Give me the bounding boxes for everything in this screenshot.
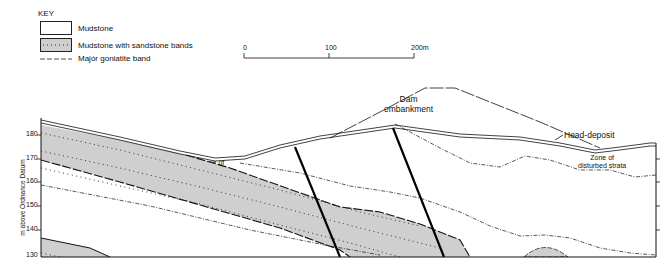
- y-tick-130: 130: [26, 251, 38, 258]
- dam-label: Dam embankment: [384, 94, 433, 114]
- mudstone-swatch: [40, 21, 72, 35]
- key-item-goniatite: Majór goniatite band: [40, 54, 151, 63]
- key-label: Mudstone with sandstone bands: [78, 41, 193, 50]
- y-tick-180: 180: [26, 130, 38, 137]
- key-label: Mudstone: [78, 24, 113, 33]
- goniatite-band-icon: [40, 55, 72, 63]
- scale-tick-200: 200m: [411, 44, 429, 51]
- y-tick-140: 140: [26, 225, 38, 232]
- scale-bar: [244, 53, 414, 58]
- y-tick-150: 150: [26, 201, 38, 208]
- zone-right-label: Zone of disturbed strata: [578, 154, 626, 170]
- key-item-mudstone: Mudstone: [40, 21, 113, 35]
- zone-left-label: Zone of disturbed strata: [198, 159, 227, 183]
- key-title: KEY: [38, 9, 54, 18]
- key-item-mudstone-sandstone: Mudstone with sandstone bands: [40, 38, 193, 52]
- y-axis-label: m above Ordnance Datum: [19, 143, 26, 253]
- sandstone-swatch: [40, 38, 72, 52]
- y-tick-160: 160: [26, 177, 38, 184]
- scale-tick-100: 100: [325, 44, 337, 51]
- scale-tick-0: 0: [243, 44, 247, 51]
- key-label: Majór goniatite band: [78, 54, 151, 63]
- head-deposit-label: Head-deposit: [564, 130, 615, 140]
- y-tick-170: 170: [26, 154, 38, 161]
